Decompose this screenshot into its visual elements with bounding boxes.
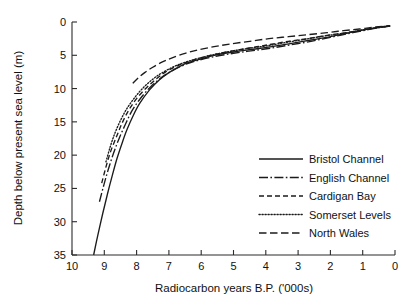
y-tick-label: 0 xyxy=(60,16,66,28)
series-line-bristol-channel xyxy=(94,26,391,255)
series-line-somerset-levels xyxy=(106,26,390,162)
y-tick-label: 30 xyxy=(54,216,66,228)
legend-label-somerset-levels: Somerset Levels xyxy=(309,209,391,221)
x-tick-label: 9 xyxy=(101,260,107,272)
x-axis-ticks: 109876543210 xyxy=(66,250,398,272)
y-tick-label: 15 xyxy=(54,116,66,128)
y-tick-label: 20 xyxy=(54,149,66,161)
x-tick-label: 4 xyxy=(263,260,269,272)
x-axis-title: Radiocarbon years B.P. ('000s) xyxy=(155,282,313,294)
x-tick-label: 8 xyxy=(134,260,140,272)
x-tick-label: 3 xyxy=(295,260,301,272)
x-tick-label: 1 xyxy=(360,260,366,272)
x-tick-label: 7 xyxy=(166,260,172,272)
y-axis-ticks: 05101520253035 xyxy=(54,16,77,261)
legend-label-north-wales: North Wales xyxy=(309,227,370,239)
x-tick-label: 6 xyxy=(198,260,204,272)
y-tick-label: 5 xyxy=(60,49,66,61)
x-tick-label: 0 xyxy=(392,260,398,272)
x-tick-label: 5 xyxy=(230,260,236,272)
y-axis-title: Depth below present sea level (m) xyxy=(12,51,24,226)
y-tick-label: 35 xyxy=(54,249,66,261)
y-tick-label: 25 xyxy=(54,182,66,194)
legend-label-english-channel: English Channel xyxy=(309,172,389,184)
series-line-north-wales xyxy=(133,26,390,84)
x-tick-label: 2 xyxy=(327,260,333,272)
legend-label-cardigan-bay: Cardigan Bay xyxy=(309,190,376,202)
series-group xyxy=(94,26,391,255)
y-tick-label: 10 xyxy=(54,83,66,95)
legend: Bristol ChannelEnglish ChannelCardigan B… xyxy=(259,153,391,239)
x-tick-label: 10 xyxy=(66,260,78,272)
chart-container: 109876543210 05101520253035 Radiocarbon … xyxy=(0,0,412,308)
legend-label-bristol-channel: Bristol Channel xyxy=(309,153,384,165)
sea-level-curve-chart: 109876543210 05101520253035 Radiocarbon … xyxy=(0,0,412,308)
